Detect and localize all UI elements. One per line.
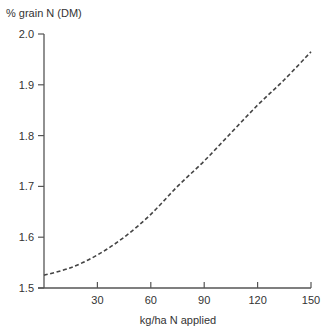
y-tick-label: 1.8 [19, 130, 34, 142]
x-tick-label: 30 [91, 294, 103, 306]
chart: % grain N (DM) 1.51.61.71.81.92.03060901… [0, 0, 328, 336]
data-curve [44, 52, 311, 276]
y-tick-label: 1.7 [19, 180, 34, 192]
y-tick-label: 1.6 [19, 231, 34, 243]
y-tick-label: 2.0 [19, 28, 34, 40]
x-tick-label: 60 [145, 294, 157, 306]
x-tick-label: 90 [198, 294, 210, 306]
y-axis-label: % grain N (DM) [6, 7, 82, 19]
y-tick-label: 1.9 [19, 79, 34, 91]
x-tick-label: 120 [248, 294, 266, 306]
x-tick-label: 150 [302, 294, 320, 306]
y-tick-label: 1.5 [19, 282, 34, 294]
axes: 1.51.61.71.81.92.0306090120150 [19, 28, 320, 306]
x-axis-label: kg/ha N applied [140, 314, 216, 326]
